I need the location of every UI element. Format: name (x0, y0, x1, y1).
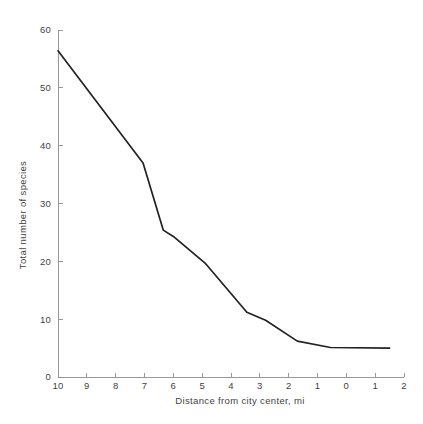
y-tick-label: 30 (40, 198, 51, 209)
x-tick-label: 2 (286, 380, 291, 391)
x-tick-label: 2 (401, 380, 406, 391)
y-axis: 0102030405060 (40, 24, 62, 382)
y-axis-title: Total number of species (17, 161, 28, 269)
x-tick-label: 3 (257, 380, 262, 391)
chart-container: 0102030405060 10987654321012 Distance fr… (0, 0, 423, 424)
x-tick-label: 8 (113, 380, 118, 391)
x-tick-label: 9 (84, 380, 89, 391)
x-tick-label: 1 (372, 380, 377, 391)
y-tick-label: 20 (40, 256, 51, 267)
y-tick-label: 50 (40, 82, 51, 93)
x-tick-label: 5 (199, 380, 204, 391)
data-series-group (58, 51, 390, 348)
y-tick-label: 0 (46, 371, 51, 382)
x-axis: 10987654321012 (53, 373, 407, 392)
x-tick-label: 10 (53, 380, 64, 391)
x-axis-title: Distance from city center, mi (175, 395, 304, 406)
x-tick-label: 4 (228, 380, 233, 391)
y-tick-label: 10 (40, 314, 51, 325)
y-tick-label: 40 (40, 140, 51, 151)
line-chart: 0102030405060 10987654321012 Distance fr… (0, 0, 423, 424)
data-line (58, 51, 390, 348)
x-tick-label: 7 (142, 380, 147, 391)
x-tick-label: 0 (344, 380, 349, 391)
y-tick-label: 60 (40, 24, 51, 35)
x-tick-label: 6 (171, 380, 176, 391)
x-tick-label: 1 (315, 380, 320, 391)
